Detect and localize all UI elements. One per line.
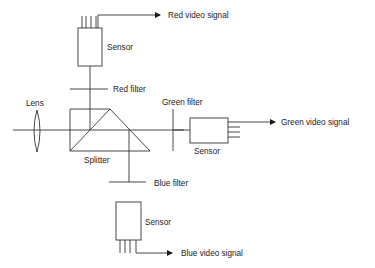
lens-label: Lens <box>26 99 44 108</box>
red-sensor <box>78 28 102 66</box>
green-sensor-pins <box>228 127 240 137</box>
red-signal-arrow <box>98 15 160 28</box>
green-sensor <box>190 118 228 143</box>
lens <box>34 110 40 152</box>
blue-signal-label: Blue video signal <box>181 249 243 258</box>
blue-sensor-pins <box>120 240 130 253</box>
green-signal-label: Green video signal <box>281 118 349 127</box>
camera-optics-diagram: Lens Splitter Red filter Sensor Red vide… <box>0 0 375 268</box>
splitter-label: Splitter <box>84 156 110 165</box>
red-filter-label: Red filter <box>113 85 146 94</box>
blue-sensor <box>116 202 141 240</box>
red-sensor-pins <box>82 16 96 28</box>
red-signal-label: Red video signal <box>168 11 229 20</box>
blue-sensor-label: Sensor <box>145 218 171 227</box>
blue-filter-label: Blue filter <box>154 179 188 188</box>
blue-signal-arrow <box>136 240 172 253</box>
green-filter-label: Green filter <box>162 98 203 107</box>
green-sensor-label: Sensor <box>194 147 220 156</box>
red-sensor-label: Sensor <box>107 43 133 52</box>
